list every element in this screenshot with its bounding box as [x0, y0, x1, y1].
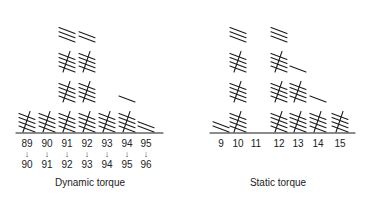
axis-tick-label: 91 [57, 139, 77, 149]
tally-column [79, 32, 95, 132]
axis-tick-label-secondary: 93 [77, 160, 97, 170]
axis-tick-label: 12 [269, 139, 289, 149]
tally-column [332, 111, 348, 132]
axis-tick-label: 94 [117, 139, 137, 149]
axis-tick-label: 15 [330, 139, 350, 149]
tally-column [59, 28, 75, 132]
axis-tick-label: 92 [77, 139, 97, 149]
tally-column [290, 66, 306, 132]
down-arrow-icon: ↓ [117, 150, 137, 159]
axis-tick-label: 11 [246, 139, 266, 149]
tally-column [19, 111, 35, 132]
axis-tick-label-secondary: 90 [17, 160, 37, 170]
dynamic-torque-title: Dynamic torque [40, 177, 140, 189]
tally-column [310, 96, 326, 132]
axis-tick-label-secondary: 92 [57, 160, 77, 170]
tally-column [99, 111, 115, 132]
down-arrow-icon: ↓ [136, 150, 156, 159]
tally-column [230, 28, 246, 132]
axis-tick-label: 93 [97, 139, 117, 149]
down-arrow-icon: ↓ [17, 150, 37, 159]
tally-charts: 89909192939495↓90↓91↓92↓93↓94↓95↓96 Dyna… [0, 0, 370, 199]
down-arrow-icon: ↓ [77, 150, 97, 159]
tally-column [138, 122, 154, 132]
axis-tick-label: 13 [288, 139, 308, 149]
tally-column [119, 96, 135, 132]
axis-tick-label: 89 [17, 139, 37, 149]
down-arrow-icon: ↓ [37, 150, 57, 159]
axis-tick-label-secondary: 94 [97, 160, 117, 170]
tally-column [271, 28, 287, 132]
axis-tick-label-secondary: 96 [136, 160, 156, 170]
axis-tick-label-secondary: 91 [37, 160, 57, 170]
tally-column [213, 122, 229, 132]
axis-tick-label: 14 [308, 139, 328, 149]
down-arrow-icon: ↓ [97, 150, 117, 159]
static-torque-title: Static torque [228, 177, 328, 189]
axis-tick-label: 95 [136, 139, 156, 149]
tally-column [39, 111, 55, 132]
axis-tick-label-secondary: 95 [117, 160, 137, 170]
down-arrow-icon: ↓ [57, 150, 77, 159]
axis-tick-label: 10 [228, 139, 248, 149]
axis-tick-label: 90 [37, 139, 57, 149]
